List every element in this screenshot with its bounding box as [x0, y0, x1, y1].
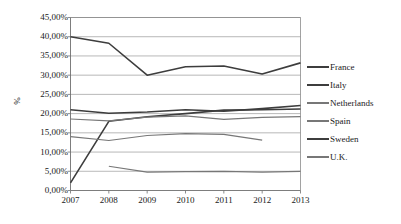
legend-item-u-k[interactable]: U.K. — [307, 148, 399, 166]
x-axis-tick-label: 2009 — [131, 196, 163, 205]
x-axis-tick-label: 2012 — [246, 196, 278, 205]
legend-item-label: Spain — [329, 117, 351, 126]
legend-item-label: Netherlands — [329, 99, 373, 108]
legend-item-italy[interactable]: Italy — [307, 76, 399, 94]
legend-item-label: France — [329, 63, 355, 72]
legend-item-label: Italy — [329, 81, 347, 90]
line-chart: % 45,00%40,00%35,00%30,00%25,00%20,00%15… — [0, 0, 401, 224]
legend-item-sweden[interactable]: Sweden — [307, 130, 399, 148]
legend-line-swatch — [307, 117, 329, 126]
x-axis-tick-label: 2010 — [170, 196, 202, 205]
legend-item-label: Sweden — [329, 135, 359, 144]
legend-line-swatch — [307, 63, 329, 72]
legend-line-swatch — [307, 153, 329, 162]
legend-line-swatch — [307, 81, 329, 90]
x-axis-tick-label: 2008 — [93, 196, 125, 205]
chart-legend: FranceItalyNetherlandsSpainSwedenU.K. — [307, 58, 399, 166]
plot-background — [71, 18, 301, 191]
legend-item-spain[interactable]: Spain — [307, 112, 399, 130]
x-axis-tick-label: 2007 — [55, 196, 87, 205]
x-axis-tick-label: 2013 — [285, 196, 317, 205]
legend-line-swatch — [307, 99, 329, 108]
x-axis-tick-label: 2011 — [208, 196, 240, 205]
legend-line-swatch — [307, 135, 329, 144]
legend-item-netherlands[interactable]: Netherlands — [307, 94, 399, 112]
legend-item-france[interactable]: France — [307, 58, 399, 76]
legend-item-label: U.K. — [329, 153, 348, 162]
